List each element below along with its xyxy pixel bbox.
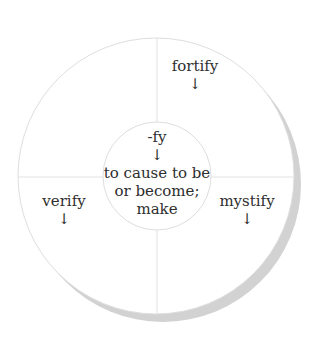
word-mystify: mystify ↓ bbox=[219, 192, 274, 228]
word-verify: verify ↓ bbox=[42, 192, 85, 228]
word-label: mystify bbox=[219, 192, 274, 210]
meaning-line-1: to cause to be bbox=[104, 164, 210, 182]
word-label: verify bbox=[42, 192, 85, 210]
meaning-line-2: or become; bbox=[104, 182, 210, 200]
word-wheel-diagram: -fy ↓ to cause to be or become; make for… bbox=[0, 0, 315, 348]
down-arrow-icon: ↓ bbox=[42, 210, 85, 228]
down-arrow-icon: ↓ bbox=[219, 210, 274, 228]
meaning-line-3: make bbox=[104, 200, 210, 218]
down-arrow-icon: ↓ bbox=[104, 146, 210, 164]
suffix-label: -fy bbox=[104, 128, 210, 146]
center-definition: -fy ↓ to cause to be or become; make bbox=[104, 128, 210, 218]
word-fortify: fortify ↓ bbox=[172, 57, 219, 93]
word-label: fortify bbox=[172, 57, 219, 75]
down-arrow-icon: ↓ bbox=[172, 75, 219, 93]
